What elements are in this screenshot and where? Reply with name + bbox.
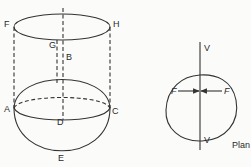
label-f: F <box>4 19 10 29</box>
label-plan: Plan <box>232 140 250 150</box>
sphere-upper-arc <box>14 80 110 109</box>
plan-view: V V F F Plan <box>166 42 250 150</box>
label-h: H <box>113 19 120 29</box>
elevation-view: F H G B A C D E <box>4 8 120 163</box>
label-d: D <box>57 117 64 127</box>
label-c: C <box>112 106 119 116</box>
diagram-svg: F H G B A C D E V V F F Plan <box>0 0 251 167</box>
label-b: B <box>66 52 72 62</box>
label-force-left: F <box>171 86 177 96</box>
plan-outline <box>166 75 237 141</box>
label-v-bottom: V <box>204 135 210 145</box>
label-v-top: V <box>204 43 210 53</box>
label-e: E <box>58 153 64 163</box>
label-g: G <box>49 40 56 50</box>
cylinder-top-ellipse <box>14 14 110 40</box>
label-force-right: F <box>224 86 230 96</box>
equator-back <box>14 98 110 109</box>
label-a: A <box>4 104 10 114</box>
diagram-canvas: F H G B A C D E V V F F Plan <box>0 0 251 167</box>
sphere-lower-arc <box>14 108 110 151</box>
